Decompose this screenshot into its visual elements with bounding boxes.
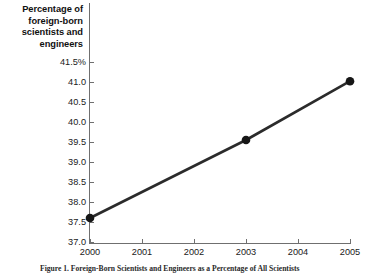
- chart-figure: Percentage of foreign-born scientists an…: [0, 0, 373, 273]
- chart-title-line-2: foreign-born: [0, 16, 83, 28]
- y-axis-tick-label: 41.0: [26, 78, 86, 87]
- x-axis-tick-label: 2004: [274, 248, 322, 257]
- y-axis-tick: [90, 62, 94, 63]
- y-axis-tick-label: 40.0: [26, 118, 86, 127]
- x-axis-tick-label: 2002: [170, 248, 218, 257]
- y-axis-tick-label: 37.5: [26, 218, 86, 227]
- y-axis-tick: [90, 202, 94, 203]
- x-axis-tick: [142, 239, 143, 243]
- x-axis-tick: [298, 239, 299, 243]
- x-axis-tick-label: 2005: [326, 248, 373, 257]
- y-axis-tick-label: 38.5: [26, 178, 86, 187]
- y-axis-tick: [90, 182, 94, 183]
- x-axis-tick: [350, 239, 351, 243]
- y-axis-tick-label: 37.0: [26, 238, 86, 247]
- y-axis-tick: [90, 222, 94, 223]
- chart-title-line-4: engineers: [0, 39, 83, 51]
- y-axis-tick: [90, 162, 94, 163]
- data-point-marker: [242, 136, 251, 145]
- y-axis-tick-label: 38.0: [26, 198, 86, 207]
- figure-caption: Figure 1. Foreign-Born Scientists and En…: [40, 265, 373, 273]
- x-axis-tick: [246, 239, 247, 243]
- y-axis-tick-label: 39.0: [26, 158, 86, 167]
- y-axis-tick: [90, 102, 94, 103]
- y-axis-tick: [90, 122, 94, 123]
- chart-title-line-1: Percentage of: [0, 4, 83, 16]
- x-axis-tick-label: 2003: [222, 248, 270, 257]
- x-axis-tick-label: 2001: [118, 248, 166, 257]
- y-axis-line: [89, 3, 90, 244]
- x-axis-line: [89, 243, 351, 244]
- x-axis-tick: [90, 239, 91, 243]
- data-series-line: [90, 81, 350, 218]
- y-axis-tick: [90, 82, 94, 83]
- y-axis-tick-label: 40.5: [26, 98, 86, 107]
- x-axis-tick-label: 2000: [66, 248, 114, 257]
- y-axis-tick-label: 39.5: [26, 138, 86, 147]
- y-axis-tick-label: 41.5%: [26, 58, 86, 67]
- chart-title-line-3: scientists and: [0, 27, 83, 39]
- data-point-marker: [346, 77, 355, 86]
- data-point-marker: [86, 214, 95, 223]
- x-axis-tick: [194, 239, 195, 243]
- data-markers: [86, 77, 355, 222]
- y-axis-tick: [90, 142, 94, 143]
- chart-title: Percentage of foreign-born scientists an…: [0, 4, 83, 50]
